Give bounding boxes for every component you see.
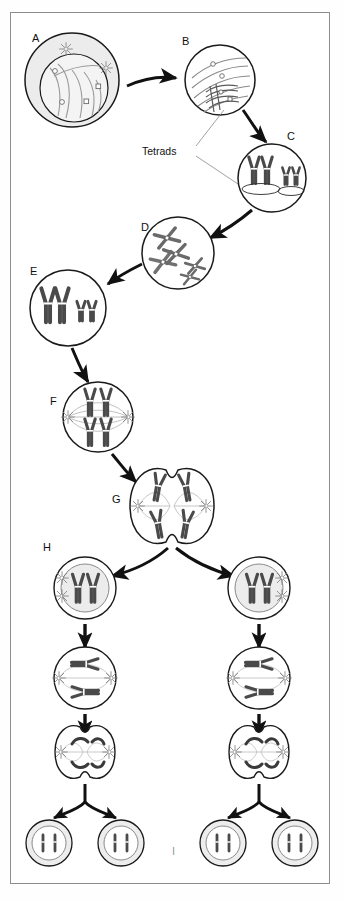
stage-label-d: D <box>141 222 149 233</box>
stage-label-f: F <box>50 396 57 407</box>
tetrads-label: Tetrads <box>142 146 176 157</box>
stage-label-b: B <box>182 36 190 47</box>
stage-label-a: A <box>32 33 40 44</box>
stage-label-e: E <box>30 266 38 277</box>
stage-label-g: G <box>112 494 121 505</box>
stage-label-i: I <box>172 846 175 857</box>
stage-label-c: C <box>287 131 295 142</box>
meiosis-figure: A B C D E F G H I Tetrads <box>0 0 343 902</box>
figure-border <box>10 12 330 884</box>
stage-label-h: H <box>43 542 51 553</box>
